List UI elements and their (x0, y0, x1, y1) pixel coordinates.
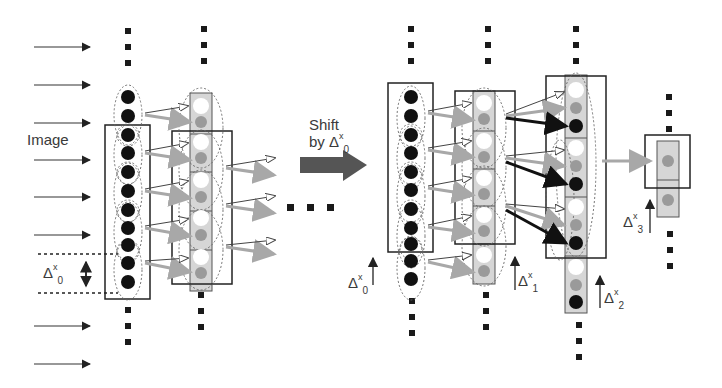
delta-subscript: 0 (58, 275, 64, 286)
layer1-output-arrows (226, 158, 275, 254)
input-arrows (34, 47, 90, 364)
shift-label-line2: by Δx0 (309, 134, 349, 153)
delta-x2-label: Δx2 (604, 290, 624, 309)
delta-symbol: Δ (348, 274, 358, 291)
delta-x3-label: Δx3 (623, 214, 643, 233)
r-connections-l0-l1 (428, 103, 473, 272)
shift-by-delta-text: by Δ (309, 133, 339, 150)
delta-symbol: Δ (623, 213, 633, 230)
r-layer0-neurons (404, 90, 418, 286)
image-label: Image (27, 132, 69, 147)
delta-subscript: 0 (363, 285, 369, 296)
delta-superscript: x (614, 287, 619, 297)
ellipsis-dots-left (125, 26, 334, 345)
delta-symbol: Δ (604, 289, 614, 306)
delta-superscript: x (633, 211, 638, 221)
shift-label: Shift by Δx0 (309, 117, 349, 153)
shift-delta-subscript: 0 (344, 144, 350, 155)
delta-symbol: Δ (43, 264, 53, 281)
layer0-neurons (121, 90, 135, 289)
shift-label-line1: Shift (309, 117, 349, 132)
ellipsis-dots-right (408, 26, 673, 360)
delta-subscript: 1 (533, 283, 539, 294)
delta-symbol: Δ (518, 272, 528, 289)
right-panel (373, 26, 690, 360)
delta-superscript: x (528, 270, 533, 280)
delta-superscript: x (358, 272, 363, 282)
shift-arrow (300, 150, 367, 181)
delta-x0-right-label: Δx0 (348, 275, 368, 294)
delta-x1-label: Δx1 (518, 273, 538, 292)
delta-x0-left-label: Δx0 (43, 265, 63, 284)
multi-layer-shift-diagram (0, 0, 722, 388)
delta-superscript: x (53, 262, 58, 272)
delta-subscript: 3 (638, 224, 644, 235)
shift-delta-superscript: x (339, 131, 344, 141)
left-panel (34, 26, 334, 364)
delta-subscript: 2 (619, 300, 625, 311)
